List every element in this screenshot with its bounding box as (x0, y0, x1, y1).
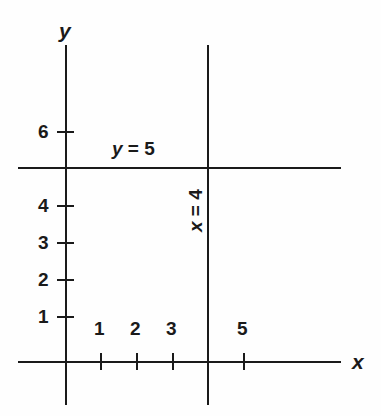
line-x-equals-4 (207, 45, 209, 405)
annotation-x-equals-4-variable: x (185, 221, 206, 232)
annotation-x-equals-4-value: = 4 (185, 189, 206, 221)
y-tick-6 (57, 131, 74, 133)
y-tick-label-6: 6 (38, 122, 49, 141)
x-tick-2 (136, 353, 138, 370)
x-tick-3 (172, 353, 174, 370)
y-tick-label-1: 1 (38, 307, 49, 326)
y-tick-1 (57, 316, 74, 318)
x-tick-5 (243, 353, 245, 370)
line-y-equals-5 (18, 167, 341, 169)
y-tick-3 (57, 242, 74, 244)
y-tick-4 (57, 205, 74, 207)
annotation-x-equals-4: x = 4 (186, 189, 205, 232)
coordinate-plane-figure: 6 4 3 2 1 1 2 3 5 y x y = 5 x = 4 (0, 0, 381, 416)
y-tick-label-2: 2 (38, 270, 49, 289)
y-axis-label: y (59, 20, 71, 41)
y-tick-label-3: 3 (38, 233, 49, 252)
annotation-y-equals-5-value: = 5 (123, 138, 155, 159)
y-tick-label-4: 4 (38, 196, 49, 215)
annotation-y-equals-5-variable: y (112, 138, 123, 159)
x-tick-label-3: 3 (166, 319, 177, 338)
x-tick-1 (100, 353, 102, 370)
y-tick-2 (57, 279, 74, 281)
x-tick-label-1: 1 (94, 319, 105, 338)
annotation-y-equals-5: y = 5 (112, 139, 155, 158)
y-axis-line (65, 45, 67, 405)
x-axis-label: x (352, 351, 364, 372)
x-tick-label-2: 2 (130, 319, 141, 338)
x-tick-label-5: 5 (237, 319, 248, 338)
